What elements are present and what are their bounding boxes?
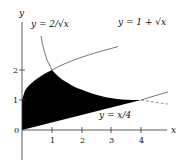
origin-label: 0 (14, 126, 19, 135)
x-axis-label: x (171, 125, 176, 135)
y-tick-1: 1 (13, 96, 18, 105)
shaded-region (22, 70, 141, 130)
curve-1-plus-sqrt-x (52, 47, 118, 71)
curve-label-2-over-sqrt-x: y = 2/√x (30, 19, 69, 29)
x-tick-1: 1 (50, 136, 55, 145)
x-tick-3: 3 (109, 136, 114, 145)
y-axis-label: y (18, 8, 25, 18)
curve-label-1-plus-sqrt-x: y = 1 + √x (117, 17, 166, 27)
curve-label-x-over-4: y = x/4 (98, 110, 131, 120)
region-plot: y x 0 1 2 3 4 1 2 y = 2/√x y = 1 + √x y … (0, 0, 185, 166)
curve-2-over-sqrt-x (41, 36, 52, 70)
y-tick-2: 2 (13, 66, 18, 75)
x-tick-4: 4 (139, 136, 144, 145)
curve-2-over-sqrt-x-tail (141, 100, 168, 104)
x-tick-2: 2 (80, 136, 85, 145)
curve-1-plus-sqrt-x-tail (141, 92, 168, 100)
